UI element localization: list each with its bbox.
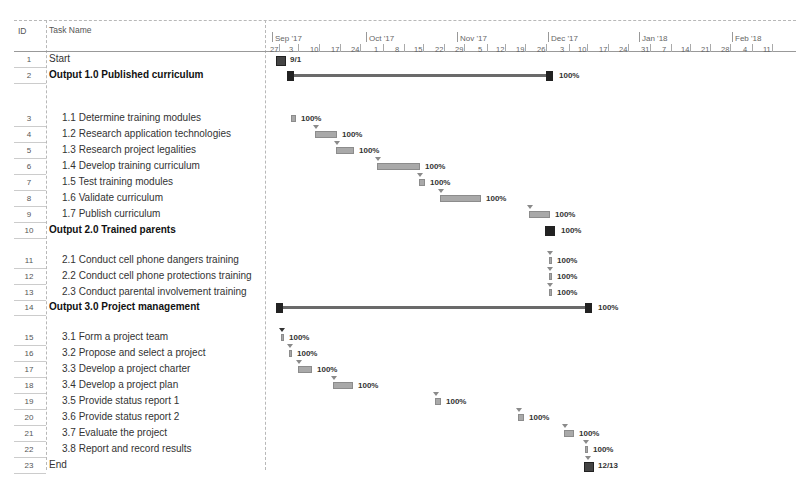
table-row[interactable]: 23End (0, 458, 265, 473)
task-bar[interactable] (377, 163, 420, 170)
table-row[interactable]: 173.3 Develop a project charter (0, 362, 265, 377)
percent-complete-label: 100% (358, 381, 378, 390)
summary-bar[interactable] (287, 74, 553, 77)
week-label: 5 (478, 45, 482, 54)
percent-complete-label: 100% (598, 303, 618, 312)
week-divider (487, 44, 488, 52)
task-id: 13 (14, 288, 44, 297)
table-row[interactable]: 91.7 Publish curriculum (0, 207, 265, 222)
row-border (14, 83, 46, 84)
dependency-arrow-icon (296, 360, 302, 364)
table-row[interactable]: 41.2 Research application technologies (0, 127, 265, 142)
percent-complete-label: 100% (425, 162, 445, 171)
task-name[interactable]: 3.2 Propose and select a project (62, 347, 205, 358)
table-row[interactable]: 203.6 Provide status report 2 (0, 410, 265, 425)
task-id: 11 (14, 256, 44, 265)
task-bar[interactable] (585, 446, 588, 453)
task-name[interactable]: 3.5 Provide status report 1 (62, 395, 179, 406)
task-bar[interactable] (564, 430, 574, 437)
table-row[interactable]: 51.3 Research project legalities (0, 143, 265, 158)
task-name[interactable]: Output 3.0 Project management (49, 301, 200, 312)
dependency-arrow-icon (334, 141, 340, 145)
week-divider (423, 44, 424, 52)
table-row[interactable]: 193.5 Provide status report 1 (0, 394, 265, 409)
task-name[interactable]: Start (49, 53, 70, 64)
month-divider (457, 32, 458, 42)
task-name[interactable]: 1.1 Determine training modules (62, 112, 201, 123)
task-name[interactable]: 3.1 Form a project team (62, 331, 168, 342)
task-name[interactable]: 3.8 Report and record results (62, 443, 192, 454)
task-bar[interactable] (291, 115, 296, 122)
table-row[interactable]: 183.4 Develop a project plan (0, 378, 265, 393)
percent-complete-label: 100% (289, 333, 309, 342)
table-row[interactable]: 153.1 Form a project team (0, 330, 265, 345)
task-name[interactable]: 3.4 Develop a project plan (62, 379, 178, 390)
dependency-arrow-icon (547, 251, 553, 255)
table-row[interactable]: 132.3 Conduct parental involvement train… (0, 285, 265, 300)
table-row[interactable]: 61.4 Develop training curriculum (0, 159, 265, 174)
task-name[interactable]: 1.6 Validate curriculum (62, 192, 163, 203)
task-name[interactable]: 1.2 Research application technologies (62, 128, 231, 139)
table-row[interactable]: 2Output 1.0 Published curriculum (0, 68, 265, 83)
task-bar[interactable] (518, 414, 524, 421)
table-row[interactable]: 81.6 Validate curriculum (0, 191, 265, 206)
task-name[interactable]: 3.7 Evaluate the project (62, 427, 167, 438)
task-name[interactable]: Output 2.0 Trained parents (49, 224, 176, 235)
task-bar[interactable] (440, 195, 481, 202)
dependency-arrow-icon (287, 344, 293, 348)
task-name[interactable]: End (49, 459, 67, 470)
month-label: Feb '18 (735, 34, 761, 43)
task-name[interactable]: 2.1 Conduct cell phone dangers training (62, 254, 239, 265)
table-row[interactable]: 163.2 Propose and select a project (0, 346, 265, 361)
week-divider (710, 44, 711, 52)
row-border (14, 238, 46, 239)
table-row[interactable]: 71.5 Test training modules (0, 175, 265, 190)
table-row[interactable]: 1Start (0, 52, 265, 67)
table-row[interactable]: 122.2 Conduct cell phone protections tra… (0, 269, 265, 284)
summary-bar[interactable] (545, 226, 555, 236)
task-bar[interactable] (529, 211, 550, 218)
task-name[interactable]: 1.5 Test training modules (62, 176, 173, 187)
task-bar[interactable] (435, 398, 441, 405)
task-name[interactable]: 3.6 Provide status report 2 (62, 411, 179, 422)
month-divider (548, 32, 549, 42)
task-bar[interactable] (298, 366, 312, 373)
task-name[interactable]: Output 1.0 Published curriculum (49, 69, 203, 80)
task-name[interactable]: 1.7 Publish curriculum (62, 208, 160, 219)
table-row[interactable]: 14Output 3.0 Project management (0, 300, 265, 315)
task-bar[interactable] (549, 273, 552, 280)
task-bar[interactable] (419, 179, 425, 186)
task-bar[interactable] (333, 382, 353, 389)
task-name[interactable]: 2.2 Conduct cell phone protections train… (62, 270, 252, 281)
task-id: 22 (14, 445, 44, 454)
link-arrow-icon (585, 456, 591, 460)
table-row[interactable]: 213.7 Evaluate the project (0, 426, 265, 441)
table-row[interactable]: 10Output 2.0 Trained parents (0, 223, 265, 238)
task-bar[interactable] (315, 131, 337, 138)
week-divider (319, 44, 320, 52)
month-divider (639, 32, 640, 42)
task-bar[interactable] (336, 147, 354, 154)
task-name[interactable]: 3.3 Develop a project charter (62, 363, 190, 374)
table-row[interactable]: 223.8 Report and record results (0, 442, 265, 457)
percent-complete-label: 100% (557, 272, 577, 281)
milestone-marker[interactable] (584, 462, 594, 472)
milestone-marker[interactable] (276, 56, 286, 66)
task-name[interactable]: 1.4 Develop training curriculum (62, 160, 200, 171)
task-bar[interactable] (549, 289, 552, 296)
id-column-header[interactable]: ID (18, 26, 27, 36)
week-label: 3 (289, 45, 293, 54)
table-row[interactable]: 112.1 Conduct cell phone dangers trainin… (0, 253, 265, 268)
task-name[interactable]: 1.3 Research project legalities (62, 144, 196, 155)
task-name-column-header[interactable]: Task Name (49, 25, 92, 35)
task-bar[interactable] (289, 350, 292, 357)
dependency-arrow-icon (547, 283, 553, 287)
task-name[interactable]: 2.3 Conduct parental involvement trainin… (62, 286, 247, 297)
table-row[interactable]: 31.1 Determine training modules (0, 111, 265, 126)
summary-bar[interactable] (276, 306, 592, 309)
week-divider (404, 44, 405, 52)
month-divider (272, 32, 273, 42)
task-bar[interactable] (549, 257, 552, 264)
week-divider (752, 44, 753, 52)
task-bar[interactable] (281, 334, 284, 341)
